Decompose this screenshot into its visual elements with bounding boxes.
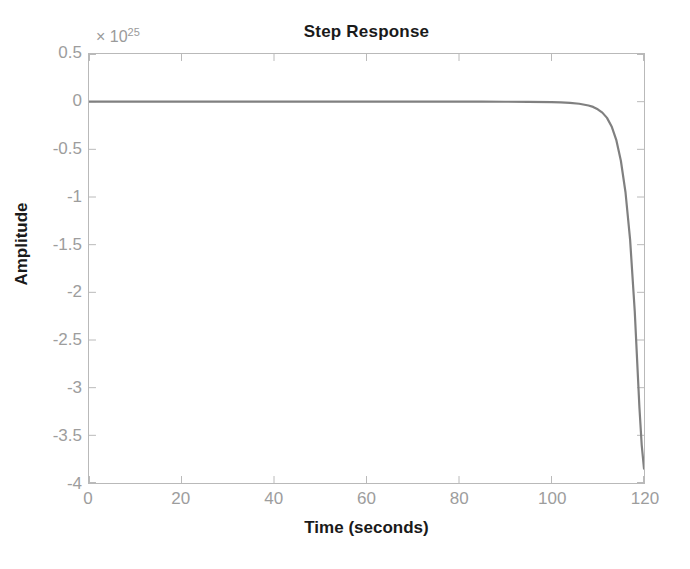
chart-title: Step Response bbox=[88, 22, 645, 42]
y-axis-exponent-label: × 1025 bbox=[96, 26, 140, 46]
y-tick-label: -2.5 bbox=[4, 330, 82, 350]
y-axis-exponent-power: 25 bbox=[128, 26, 140, 38]
plot-svg bbox=[89, 54, 644, 483]
data-lines bbox=[89, 102, 644, 469]
y-tick-label: -3 bbox=[4, 378, 82, 398]
x-tick-label: 0 bbox=[83, 489, 92, 509]
x-axis-tick-labels: 020406080100120 bbox=[88, 489, 645, 517]
y-axis-exponent-prefix: × 10 bbox=[96, 28, 128, 45]
y-tick-label: 0.5 bbox=[4, 43, 82, 63]
x-tick-label: 20 bbox=[171, 489, 190, 509]
x-axis-label: Time (seconds) bbox=[88, 518, 645, 538]
y-tick-label: -3.5 bbox=[4, 426, 82, 446]
plot-area bbox=[88, 53, 645, 484]
y-tick-label: 0 bbox=[4, 91, 82, 111]
y-axis-label: Amplitude bbox=[12, 164, 32, 324]
step-response-figure: Step Response × 1025 0.50-0.5-1-1.5-2-2.… bbox=[0, 0, 690, 569]
data-series-line bbox=[89, 102, 644, 469]
x-tick-label: 80 bbox=[450, 489, 469, 509]
y-tick-label: -4 bbox=[4, 474, 82, 494]
x-tick-label: 60 bbox=[357, 489, 376, 509]
tick-marks bbox=[89, 54, 644, 483]
x-tick-label: 100 bbox=[538, 489, 566, 509]
y-tick-label: -0.5 bbox=[4, 139, 82, 159]
x-tick-label: 40 bbox=[264, 489, 283, 509]
x-tick-label: 120 bbox=[631, 489, 659, 509]
